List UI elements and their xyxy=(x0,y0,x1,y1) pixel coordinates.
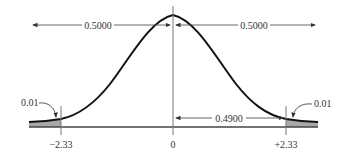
axis-label-zero: 0 xyxy=(171,139,176,150)
right-half-arrow: 0.5000 xyxy=(176,20,315,31)
axis-label-plus-2-33: +2.33 xyxy=(274,139,297,150)
left-half-label: 0.5000 xyxy=(84,20,112,31)
right-tail-pointer: 0.01 xyxy=(293,98,332,117)
left-tail-pointer: 0.01 xyxy=(21,97,56,117)
center-to-z-arrow: 0.4900 xyxy=(176,113,283,124)
normal-distribution-diagram: 0.5000 0.5000 0.4900 0.01 0.01 −2.33 0 +… xyxy=(0,0,347,155)
right-tail-label: 0.01 xyxy=(314,98,332,109)
axis-label-minus-2-33: −2.33 xyxy=(49,139,72,150)
left-tail-label: 0.01 xyxy=(21,97,39,108)
right-half-label: 0.5000 xyxy=(240,20,268,31)
left-half-arrow: 0.5000 xyxy=(33,20,170,31)
center-to-z-label: 0.4900 xyxy=(215,113,243,124)
